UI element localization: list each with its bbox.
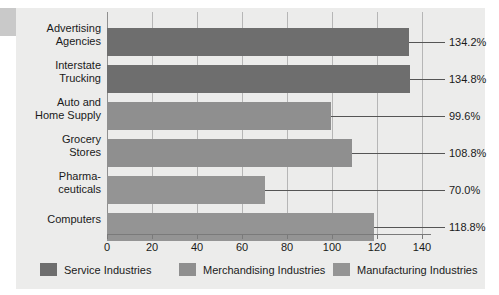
x-tick-60 bbox=[242, 234, 243, 239]
bar-pharmaceuticals bbox=[107, 176, 265, 204]
legend-swatch-merchandising-industries bbox=[179, 263, 196, 276]
category-label-interstate-trucking: Interstate Trucking bbox=[15, 59, 101, 84]
x-tick-label-140: 140 bbox=[413, 241, 431, 253]
leader-line-computers bbox=[374, 227, 445, 228]
leader-line-advertising-agencies bbox=[409, 42, 445, 43]
x-tick-label-80: 80 bbox=[281, 241, 293, 253]
category-label-grocery-stores: Grocery Stores bbox=[15, 133, 101, 158]
value-label-interstate-trucking: 134.8% bbox=[449, 73, 486, 85]
x-tick-80 bbox=[287, 234, 288, 239]
category-label-line2: Home Supply bbox=[15, 109, 101, 122]
legend-item-merchandising-industries: Merchandising Industries bbox=[179, 263, 325, 276]
category-label-auto-and-home-supply: Auto and Home Supply bbox=[15, 96, 101, 121]
x-axis-line bbox=[107, 234, 431, 235]
value-label-advertising-agencies: 134.2% bbox=[449, 36, 486, 48]
x-tick-label-60: 60 bbox=[236, 241, 248, 253]
legend-label-service-industries: Service Industries bbox=[64, 264, 151, 276]
plot-area bbox=[107, 12, 431, 234]
bar-interstate-trucking bbox=[107, 65, 410, 93]
category-label-computers: Computers bbox=[15, 213, 101, 226]
legend-item-service-industries: Service Industries bbox=[40, 263, 151, 276]
leader-line-grocery-stores bbox=[352, 153, 445, 154]
category-label-pharmaceuticals: Pharma- ceuticals bbox=[15, 170, 101, 195]
legend-label-merchandising-industries: Merchandising Industries bbox=[203, 264, 325, 276]
x-tick-140 bbox=[422, 234, 423, 239]
bar-auto-and-home-supply bbox=[107, 102, 331, 130]
x-tick-label-120: 120 bbox=[368, 241, 386, 253]
value-label-computers: 118.8% bbox=[449, 221, 486, 233]
bar-computers bbox=[107, 213, 374, 241]
legend-swatch-manufacturing-industries bbox=[333, 263, 350, 276]
x-tick-40 bbox=[197, 234, 198, 239]
x-tick-label-0: 0 bbox=[104, 241, 110, 253]
category-label-line1: Interstate bbox=[15, 59, 101, 72]
bar-advertising-agencies bbox=[107, 28, 409, 56]
category-label-line2: Agencies bbox=[15, 35, 101, 48]
category-label-line1: Computers bbox=[15, 213, 101, 226]
category-label-line1: Auto and bbox=[15, 96, 101, 109]
value-label-auto-and-home-supply: 99.6% bbox=[449, 110, 480, 122]
x-tick-20 bbox=[152, 234, 153, 239]
x-tick-label-20: 20 bbox=[146, 241, 158, 253]
leader-line-auto-and-home-supply bbox=[331, 116, 445, 117]
category-label-line1: Pharma- bbox=[15, 170, 101, 183]
legend-item-manufacturing-industries: Manufacturing Industries bbox=[333, 263, 477, 276]
x-tick-label-100: 100 bbox=[323, 241, 341, 253]
gridline-140 bbox=[422, 12, 423, 234]
leader-line-pharmaceuticals bbox=[265, 190, 445, 191]
legend-swatch-service-industries bbox=[40, 263, 57, 276]
value-label-pharmaceuticals: 70.0% bbox=[449, 184, 480, 196]
category-label-line2: ceuticals bbox=[15, 183, 101, 196]
category-label-line2: Stores bbox=[15, 146, 101, 159]
category-label-line2: Trucking bbox=[15, 72, 101, 85]
leader-line-interstate-trucking bbox=[410, 79, 445, 80]
category-label-line1: Advertising bbox=[15, 22, 101, 35]
chart-legend: Service Industries Merchandising Industr… bbox=[16, 263, 485, 283]
category-label-advertising-agencies: Advertising Agencies bbox=[15, 22, 101, 47]
x-tick-100 bbox=[332, 234, 333, 239]
legend-label-manufacturing-industries: Manufacturing Industries bbox=[357, 264, 477, 276]
chart-panel: 134.2% 134.8% 99.6% 108.8% 70.0% 118.8% … bbox=[16, 8, 485, 289]
x-tick-0 bbox=[107, 234, 108, 239]
x-tick-label-40: 40 bbox=[191, 241, 203, 253]
value-label-grocery-stores: 108.8% bbox=[449, 147, 486, 159]
category-label-line1: Grocery bbox=[15, 133, 101, 146]
x-tick-120 bbox=[377, 234, 378, 239]
bar-grocery-stores bbox=[107, 139, 352, 167]
